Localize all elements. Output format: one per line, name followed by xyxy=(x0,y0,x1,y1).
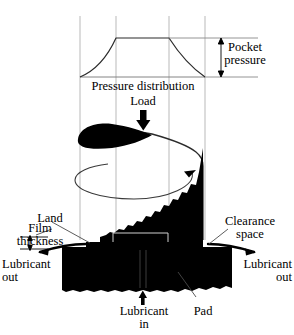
pad-block xyxy=(62,247,232,292)
pad-label: Pad xyxy=(184,305,222,318)
lubricant-in-head xyxy=(139,291,147,299)
lubricant-in-arrow xyxy=(139,291,147,306)
pressure-distribution-chart xyxy=(80,38,205,77)
pocket-arrowhead-down xyxy=(218,71,223,77)
load-arrow-shaft xyxy=(140,110,147,121)
pad-body xyxy=(62,247,232,292)
land-strip xyxy=(86,242,203,248)
lubricant-in-label: Lubricant in xyxy=(110,305,178,331)
film-thickness-label: Film thickness xyxy=(12,222,68,248)
pocket-pressure-label: Pocket pressure xyxy=(212,41,278,67)
rotation-ellipse xyxy=(75,164,192,199)
shaft-broken-section xyxy=(100,148,203,243)
lubricant-out-right-label: Lubricant out xyxy=(228,258,292,284)
load-arrow xyxy=(136,110,150,131)
hydrostatic-bearing-figure: Pocket pressure Pressure distribution Lo… xyxy=(0,0,294,335)
flow-arrowhead-right xyxy=(245,249,256,256)
load-label: Load xyxy=(119,95,167,108)
lubricant-out-left-label: Lubricant out xyxy=(2,258,64,284)
flow-arrowhead-left xyxy=(38,249,49,256)
pressure-curve xyxy=(80,38,205,77)
journal-lobe xyxy=(78,124,152,149)
pressure-distribution-label: Pressure distribution xyxy=(76,80,210,93)
clearance-space-label: Clearance space xyxy=(216,215,284,241)
land-surfaces xyxy=(86,242,203,248)
rotation-indicator xyxy=(75,164,196,199)
load-arrow-head xyxy=(136,120,150,131)
rotation-arrowhead xyxy=(184,170,196,178)
